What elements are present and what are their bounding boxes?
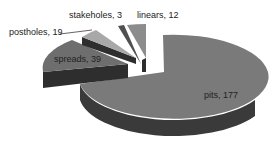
label-stakeholes: stakeholes, 3 (69, 11, 122, 20)
slice-linears-side (142, 58, 146, 72)
pie-chart (0, 0, 269, 157)
label-postholes: postholes, 19 (9, 28, 63, 37)
leader-line-postholes (60, 30, 92, 34)
label-linears: linears, 12 (137, 11, 179, 20)
label-spreads: spreads, 39 (54, 55, 101, 64)
label-pits: pits, 177 (204, 91, 238, 100)
